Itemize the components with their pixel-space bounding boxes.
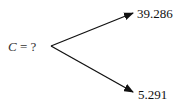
up-value: 39.286 — [137, 6, 173, 21]
tree-diagram: C = ? 39.286 5.291 — [0, 0, 182, 108]
root-node: C = ? — [8, 39, 37, 54]
down-branch-arrow — [51, 46, 133, 92]
down-value: 5.291 — [138, 87, 167, 102]
root-equals-unknown: = ? — [17, 39, 37, 54]
root-label: C = ? — [8, 39, 37, 54]
up-branch-arrow — [51, 13, 133, 46]
root-variable: C — [8, 39, 17, 54]
